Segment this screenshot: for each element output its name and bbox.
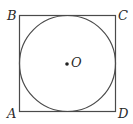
- label-b: B: [6, 8, 17, 23]
- center-point-o: [65, 62, 69, 66]
- geometry-diagram: O B C A D: [0, 0, 133, 124]
- label-o: O: [71, 55, 82, 70]
- label-a: A: [6, 106, 16, 121]
- label-c: C: [118, 8, 128, 23]
- label-d: D: [117, 106, 129, 121]
